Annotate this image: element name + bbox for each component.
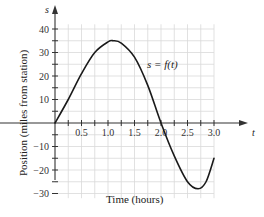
y-tick-labels: 40302010−10−20−30 <box>33 24 49 200</box>
y-tick-label: 40 <box>39 24 49 35</box>
curve-label: s = f(t) <box>147 58 178 71</box>
x-tick-label: 1.0 <box>102 127 115 138</box>
y-tick-label: −30 <box>33 188 49 199</box>
grid-lines <box>55 24 214 198</box>
y-tick-label: −20 <box>33 165 49 176</box>
y-tick-label: 30 <box>39 47 49 58</box>
y-axis-arrow-icon <box>52 5 58 14</box>
x-tick-label: 1.5 <box>128 127 141 138</box>
y-axis-title: Position (miles from station) <box>17 49 30 176</box>
x-tick-label: 0.5 <box>75 127 88 138</box>
position-time-chart: 0.51.01.52.02.53.0 40302010−10−20−30 s t… <box>0 0 264 217</box>
x-axis-title: Time (hours) <box>106 193 164 206</box>
axes <box>0 5 248 180</box>
y-tick-label: 10 <box>39 94 49 105</box>
y-tick-label: −10 <box>33 141 49 152</box>
x-tick-label: 2.5 <box>181 127 194 138</box>
x-tick-label: 3.0 <box>208 127 221 138</box>
x-axis-arrow-icon <box>239 120 248 126</box>
x-axis-symbol: t <box>252 127 255 138</box>
y-tick-label: 20 <box>39 71 49 82</box>
y-axis-symbol: s <box>45 4 49 15</box>
